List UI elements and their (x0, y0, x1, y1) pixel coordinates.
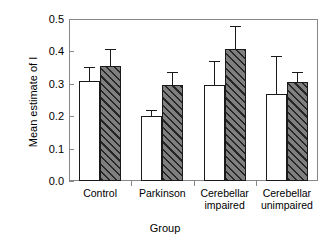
error-bar-cap (84, 67, 95, 68)
error-bar-cap (230, 26, 241, 27)
x-category-label-line1: Cerebellar (263, 187, 311, 199)
error-bar-cap (167, 72, 178, 73)
x-tick-mark (194, 181, 195, 186)
error-bar-stem (172, 73, 173, 85)
bar-white (79, 81, 100, 181)
bar-hatched (225, 49, 246, 181)
bar-white (204, 85, 225, 181)
bar-white (266, 94, 287, 181)
y-tick-label: 0.5 (24, 14, 64, 25)
error-bar-stem (110, 50, 111, 66)
bar-hatched (100, 66, 121, 181)
bar-hatched (162, 85, 183, 181)
bar-group (204, 19, 246, 181)
x-category-label: Cerebellarunimpaired (227, 188, 330, 211)
error-bar-cap (271, 56, 282, 57)
y-tick-label: 0.0 (24, 176, 64, 187)
bar-group (141, 19, 183, 181)
error-bar-stem (297, 73, 298, 82)
y-tick-mark (69, 181, 74, 182)
bar-chart: Mean estimate of I 0.00.10.20.30.40.5 Co… (0, 0, 330, 243)
bars-layer (69, 19, 318, 181)
error-bar-stem (89, 68, 90, 81)
error-bar-cap (146, 110, 157, 111)
y-tick-label: 0.2 (24, 111, 64, 122)
error-bar-cap (292, 72, 303, 73)
y-tick-label: 0.1 (24, 143, 64, 154)
error-bar-stem (214, 62, 215, 85)
error-bar-cap (105, 49, 116, 50)
bar-white (141, 116, 162, 181)
bar-group (79, 19, 121, 181)
error-bar-stem (235, 27, 236, 49)
y-tick-label: 0.3 (24, 78, 64, 89)
error-bar-cap (209, 61, 220, 62)
y-tick-label: 0.4 (24, 46, 64, 57)
bar-hatched (287, 82, 308, 181)
x-category-label-line2: unimpaired (227, 200, 330, 212)
x-axis-title: Group (0, 222, 330, 234)
error-bar-stem (151, 111, 152, 116)
x-tick-mark (256, 181, 257, 186)
error-bar-stem (276, 57, 277, 93)
x-tick-mark (131, 181, 132, 186)
bar-group (266, 19, 308, 181)
